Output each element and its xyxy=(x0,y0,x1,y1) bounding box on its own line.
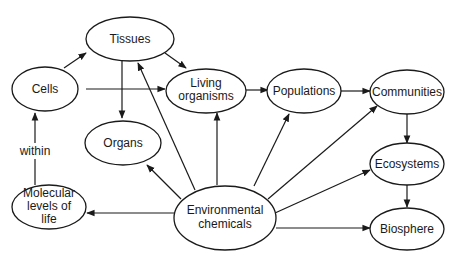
node-ecosystems: Ecosystems xyxy=(370,143,444,185)
node-tissues: Tissues xyxy=(86,17,174,61)
node-molecular-levels-of-life: Molecular levels of life xyxy=(12,185,86,229)
svg-text:Cells: Cells xyxy=(32,82,59,96)
svg-text:Ecosystems: Ecosystems xyxy=(375,157,440,171)
edge-env-to-populations xyxy=(254,114,289,186)
svg-text:Populations: Populations xyxy=(273,84,336,98)
edge-env-to-communities xyxy=(268,106,377,199)
svg-text:Organs: Organs xyxy=(103,136,142,150)
edge-env-to-ecosystems xyxy=(275,170,370,213)
edge-label-within: within xyxy=(18,143,52,159)
node-environmental-chemicals: Environmental chemicals xyxy=(174,186,276,250)
svg-text:Environmental: Environmental xyxy=(187,203,264,217)
node-communities: Communities xyxy=(370,70,444,114)
node-organs: Organs xyxy=(85,121,161,165)
svg-text:Living: Living xyxy=(190,76,221,90)
svg-text:life: life xyxy=(41,212,57,226)
edge-tissues-to-living xyxy=(165,53,186,68)
node-living-organisms: Living organisms xyxy=(166,69,246,113)
svg-text:Tissues: Tissues xyxy=(110,32,151,46)
svg-text:Molecular: Molecular xyxy=(23,186,75,200)
ecotoxicology-diagram: within Tissues Cells Living organisms Or… xyxy=(0,0,455,264)
svg-text:levels of: levels of xyxy=(27,199,72,213)
svg-text:within: within xyxy=(19,144,51,158)
svg-text:chemicals: chemicals xyxy=(198,217,251,231)
svg-text:organisms: organisms xyxy=(178,89,233,103)
node-biosphere: Biosphere xyxy=(370,208,444,250)
node-cells: Cells xyxy=(12,67,78,111)
edge-env-to-organs xyxy=(147,165,181,199)
svg-text:Communities: Communities xyxy=(372,85,442,99)
node-populations: Populations xyxy=(267,69,341,113)
svg-text:Biosphere: Biosphere xyxy=(380,222,434,236)
edge-cells-to-tissues xyxy=(64,53,86,68)
